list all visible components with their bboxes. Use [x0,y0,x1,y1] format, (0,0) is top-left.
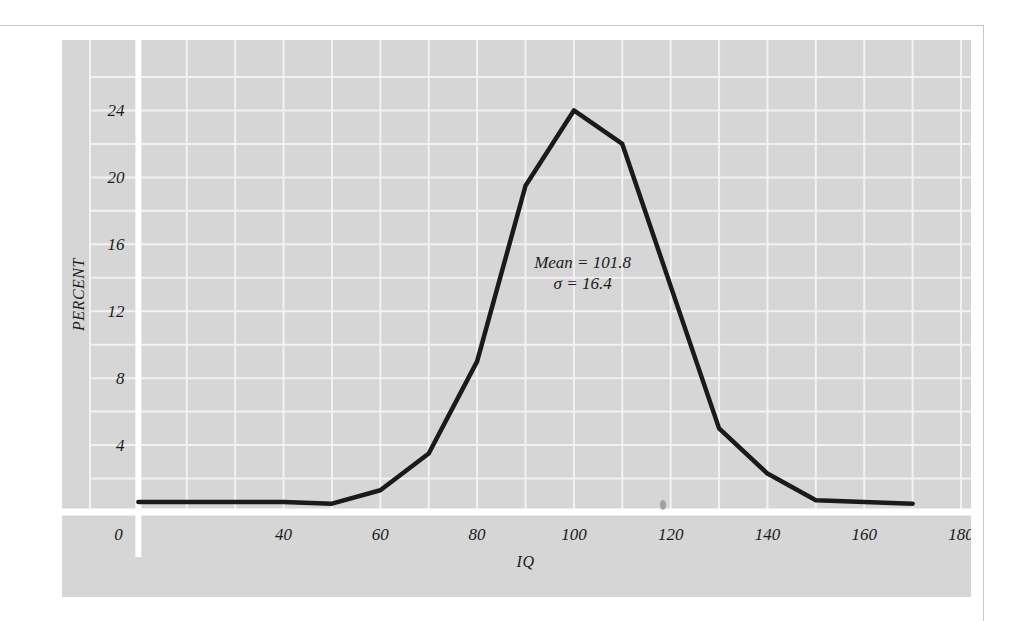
x-tick-label: 160 [851,525,877,544]
y-tick-label: 24 [107,101,125,120]
annotation-mean: Mean = 101.8 [533,253,631,272]
iq-distribution-chart: 0406080100120140160180 4812162024 IQ PER… [62,40,971,597]
x-tick-label: 100 [561,525,587,544]
annotation-sigma: σ = 16.4 [554,274,613,293]
page-rule-top [0,25,984,26]
page-rule-right [983,25,984,621]
y-tick-label: 16 [107,235,125,254]
x-tick-label: 80 [469,525,487,544]
x-axis-title: IQ [516,553,535,570]
x-axis-tick-labels: 0406080100120140160180 [114,525,971,544]
y-tick-label: 8 [116,369,125,388]
x-tick-label: 120 [658,525,684,544]
y-tick-label: 12 [107,302,125,321]
y-tick-label: 20 [107,168,125,187]
x-tick-label: 180 [948,525,971,544]
ink-speck-artifact [660,500,666,510]
y-tick-label: 4 [116,436,125,455]
page-canvas: 0406080100120140160180 4812162024 IQ PER… [0,0,1023,621]
x-tick-label: 60 [372,525,390,544]
x-tick-label: 0 [114,525,123,544]
x-tick-label: 40 [275,525,293,544]
x-tick-label: 140 [755,525,781,544]
y-axis-title: PERCENT [70,257,87,331]
grid-lines-horizontal [90,77,971,479]
figure-panel: 0406080100120140160180 4812162024 IQ PER… [62,40,971,597]
